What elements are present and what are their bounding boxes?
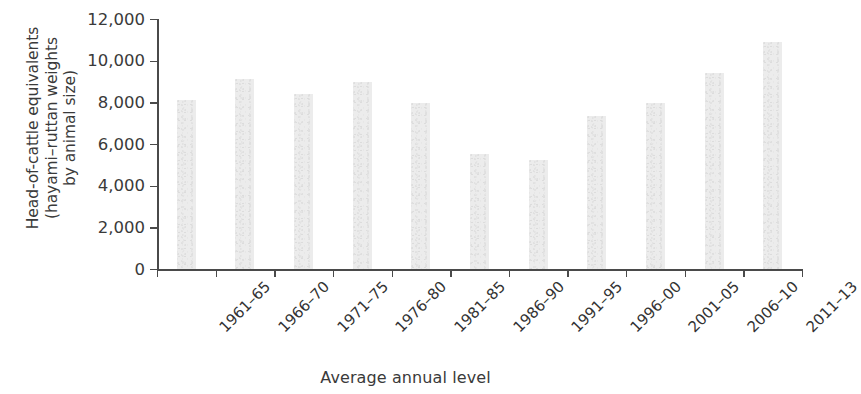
x-axis-tick-label: 1976–80	[393, 279, 449, 335]
x-axis-tick-mark	[567, 269, 568, 277]
x-axis-title: Average annual level	[0, 368, 811, 387]
y-axis-tick-mark: 0	[150, 269, 157, 270]
bar	[705, 73, 724, 269]
y-axis-tick-label: 0	[135, 261, 146, 278]
x-axis-tick-label: 1981–85	[452, 279, 508, 335]
y-axis-tick-mark: 10,000	[150, 61, 157, 62]
x-axis-tick-label: 1996–00	[628, 279, 684, 335]
y-axis-tick-mark: 8,000	[150, 102, 157, 103]
x-axis-tick-mark	[802, 269, 803, 277]
x-axis-tick-mark	[685, 269, 686, 277]
x-axis-tick-label: 2001–05	[686, 279, 742, 335]
bar	[411, 103, 430, 269]
x-axis-tick-label: 1971–75	[335, 279, 391, 335]
y-axis-tick-mark: 6,000	[150, 144, 157, 145]
y-axis-tick-mark: 4,000	[150, 186, 157, 187]
plot-area: 02,0004,0006,0008,00010,00012,000	[157, 19, 802, 269]
y-axis-title: Head-of-cattle equivalents (hayami–rutta…	[24, 0, 80, 258]
x-axis-tick-label: 2011–13	[804, 279, 860, 335]
bar	[235, 79, 254, 269]
bar	[294, 94, 313, 269]
y-axis-tick-mark: 12,000	[150, 19, 157, 20]
bar	[177, 100, 196, 269]
y-axis-tick-label: 6,000	[98, 136, 145, 153]
x-axis-tick-mark	[157, 269, 158, 277]
x-axis-tick-mark	[509, 269, 510, 277]
bar	[470, 154, 489, 269]
x-axis-tick-mark	[216, 269, 217, 277]
x-axis-tick-mark	[743, 269, 744, 277]
x-axis-tick-mark	[450, 269, 451, 277]
x-axis-tick-mark	[392, 269, 393, 277]
x-axis-tick-mark	[333, 269, 334, 277]
x-axis-line	[157, 269, 802, 271]
bar	[529, 160, 548, 269]
bar	[353, 82, 372, 270]
x-axis-tick-label: 1961–65	[217, 279, 273, 335]
y-axis-tick-label: 8,000	[98, 95, 145, 112]
bar	[763, 42, 782, 269]
y-axis-tick-label: 12,000	[87, 11, 145, 28]
bar	[587, 116, 606, 269]
x-axis-tick-label: 2006–10	[745, 279, 801, 335]
bar	[646, 103, 665, 269]
y-axis-tick-label: 10,000	[87, 53, 145, 70]
x-axis-tick-mark	[626, 269, 627, 277]
y-axis-tick-mark: 2,000	[150, 227, 157, 228]
y-axis-tick-label: 4,000	[98, 178, 145, 195]
x-axis-tick-label: 1966–70	[276, 279, 332, 335]
y-axis-line	[157, 19, 159, 269]
x-axis-tick-label: 1991–95	[569, 279, 625, 335]
x-axis-tick-label: 1986–90	[510, 279, 566, 335]
y-axis-tick-label: 2,000	[98, 220, 145, 237]
x-axis-tick-mark	[274, 269, 275, 277]
